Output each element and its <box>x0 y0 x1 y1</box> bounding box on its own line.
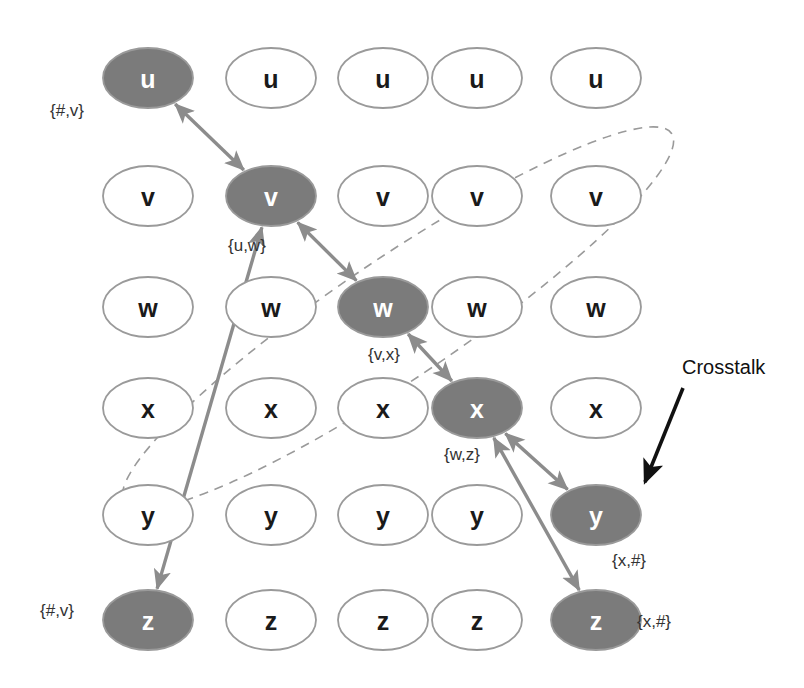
set-x-hash-bot: {x,#} <box>637 612 671 632</box>
node-shape-v4 <box>432 166 522 226</box>
node-shape-y5 <box>551 485 641 545</box>
node-x2[interactable]: x <box>226 378 316 438</box>
set-hash-v-bot: {#,v} <box>40 601 74 621</box>
set-w-z: {w,z} <box>444 445 480 465</box>
node-u3[interactable]: u <box>338 48 428 108</box>
node-shape-x4 <box>432 378 522 438</box>
node-w3[interactable]: w <box>338 277 428 337</box>
node-shape-u1 <box>103 48 193 108</box>
node-shape-x5 <box>551 378 641 438</box>
node-shape-v1 <box>103 166 193 226</box>
node-x5[interactable]: x <box>551 378 641 438</box>
node-z5[interactable]: z <box>551 590 641 650</box>
node-shape-v5 <box>551 166 641 226</box>
node-shape-v3 <box>338 166 428 226</box>
node-shape-z2 <box>226 590 316 650</box>
node-shape-w5 <box>551 277 641 337</box>
node-u5[interactable]: u <box>551 48 641 108</box>
node-shape-x2 <box>226 378 316 438</box>
edge-x4-y5 <box>505 434 567 490</box>
node-y2[interactable]: y <box>226 485 316 545</box>
node-v1[interactable]: v <box>103 166 193 226</box>
node-shape-x1 <box>103 378 193 438</box>
node-w5[interactable]: w <box>551 277 641 337</box>
edge-v2-w3 <box>298 222 357 280</box>
node-u1[interactable]: u <box>103 48 193 108</box>
node-z3[interactable]: z <box>338 590 428 650</box>
node-v4[interactable]: v <box>432 166 522 226</box>
node-y3[interactable]: y <box>338 485 428 545</box>
set-v-x: {v,x} <box>368 345 400 365</box>
set-hash-v-top: {#,v} <box>50 101 84 121</box>
node-w2[interactable]: w <box>226 277 316 337</box>
node-shape-u3 <box>338 48 428 108</box>
node-u2[interactable]: u <box>226 48 316 108</box>
node-u4[interactable]: u <box>432 48 522 108</box>
node-w4[interactable]: w <box>432 277 522 337</box>
node-shape-w4 <box>432 277 522 337</box>
node-x4[interactable]: x <box>432 378 522 438</box>
node-y5[interactable]: y <box>551 485 641 545</box>
node-shape-v2 <box>226 166 316 226</box>
diagram-svg: uuuuuvvvvvwwwwwxxxxxyyyyyzzzzz <box>0 0 804 688</box>
node-shape-u5 <box>551 48 641 108</box>
crosstalk-pointer-arrow <box>645 388 683 482</box>
crosstalk-annotation-label: Crosstalk <box>682 356 765 379</box>
node-shape-y1 <box>103 485 193 545</box>
node-shape-u4 <box>432 48 522 108</box>
node-shape-y3 <box>338 485 428 545</box>
node-z2[interactable]: z <box>226 590 316 650</box>
node-x3[interactable]: x <box>338 378 428 438</box>
node-shape-z5 <box>551 590 641 650</box>
node-v3[interactable]: v <box>338 166 428 226</box>
node-shape-u2 <box>226 48 316 108</box>
node-shape-z3 <box>338 590 428 650</box>
node-z4[interactable]: z <box>432 590 522 650</box>
node-x1[interactable]: x <box>103 378 193 438</box>
node-v2[interactable]: v <box>226 166 316 226</box>
set-u-w: {u,w} <box>228 236 266 256</box>
node-w1[interactable]: w <box>103 277 193 337</box>
node-shape-w2 <box>226 277 316 337</box>
edge-u1-v2 <box>175 104 244 170</box>
node-shape-w3 <box>338 277 428 337</box>
edge-w3-x4 <box>408 334 452 381</box>
node-v5[interactable]: v <box>551 166 641 226</box>
node-y4[interactable]: y <box>432 485 522 545</box>
annotation-arrow-group <box>645 388 683 482</box>
node-shape-x3 <box>338 378 428 438</box>
set-x-hash-mid: {x,#} <box>612 551 646 571</box>
node-z1[interactable]: z <box>103 590 193 650</box>
diagram-canvas: uuuuuvvvvvwwwwwxxxxxyyyyyzzzzz {#,v}{u,w… <box>0 0 804 688</box>
node-shape-z1 <box>103 590 193 650</box>
node-shape-y2 <box>226 485 316 545</box>
node-y1[interactable]: y <box>103 485 193 545</box>
node-shape-y4 <box>432 485 522 545</box>
node-shape-z4 <box>432 590 522 650</box>
node-shape-w1 <box>103 277 193 337</box>
